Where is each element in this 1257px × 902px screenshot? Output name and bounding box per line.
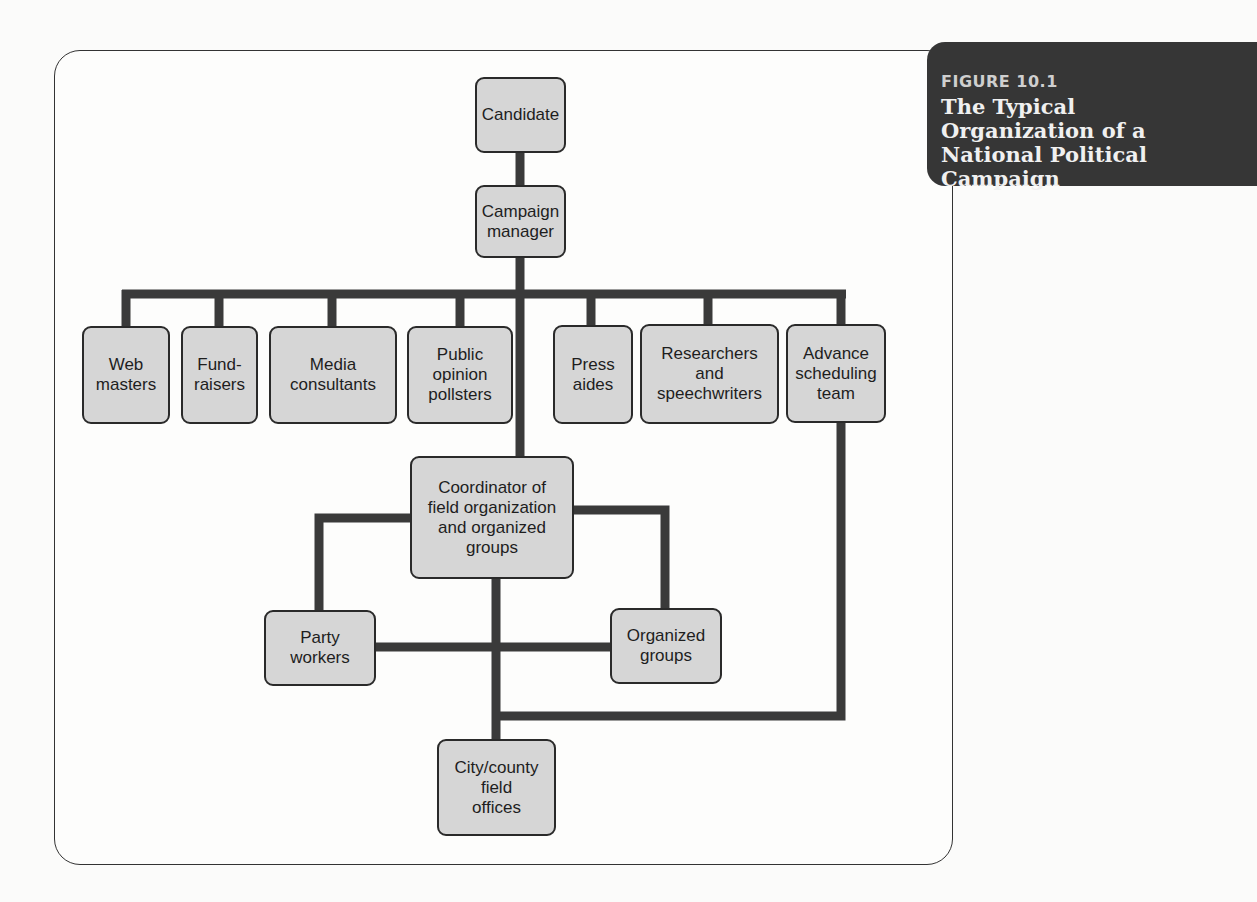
node-candidate: Candidate bbox=[475, 77, 566, 153]
node-media-consultants: Media consultants bbox=[269, 326, 397, 424]
node-coordinator-field-organization: Coordinator of field organization and or… bbox=[410, 456, 574, 579]
node-web-masters: Web masters bbox=[82, 326, 170, 424]
node-press-aides: Press aides bbox=[553, 325, 633, 424]
node-public-opinion-pollsters: Public opinion pollsters bbox=[407, 326, 513, 424]
figure-caption-box: FIGURE 10.1 The Typical Organization of … bbox=[927, 42, 1257, 186]
node-organized-groups: Organized groups bbox=[610, 608, 722, 684]
node-city-county-field-offices: City/county field offices bbox=[437, 739, 556, 836]
node-researchers-speechwriters: Researchers and speechwriters bbox=[640, 324, 779, 424]
figure-title: The Typical Organization of a National P… bbox=[941, 95, 1257, 191]
node-party-workers: Party workers bbox=[264, 610, 376, 686]
node-campaign-manager: Campaign manager bbox=[475, 185, 566, 258]
node-advance-scheduling-team: Advance scheduling team bbox=[786, 324, 886, 423]
figure-number: FIGURE 10.1 bbox=[941, 72, 1257, 91]
node-fund-raisers: Fund- raisers bbox=[181, 326, 258, 424]
